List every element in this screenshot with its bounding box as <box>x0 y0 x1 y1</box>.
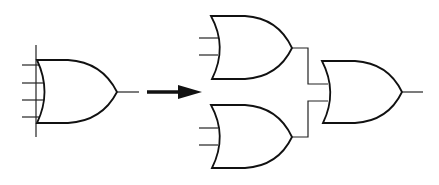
bottom-or-gate <box>199 105 292 168</box>
or-gate-shape <box>322 61 402 123</box>
or-gate-shape <box>211 16 292 79</box>
bottom-to-final-wire <box>292 101 328 137</box>
final-or-gate <box>322 61 423 123</box>
transform-arrow-icon <box>147 85 202 99</box>
or-gate-shape <box>37 60 117 123</box>
top-or-gate <box>199 16 292 79</box>
four-input-or-gate <box>22 45 139 137</box>
top-to-final-wire <box>292 48 328 84</box>
or-gate-shape <box>211 105 292 168</box>
or-gate-decomposition-diagram <box>0 0 439 185</box>
